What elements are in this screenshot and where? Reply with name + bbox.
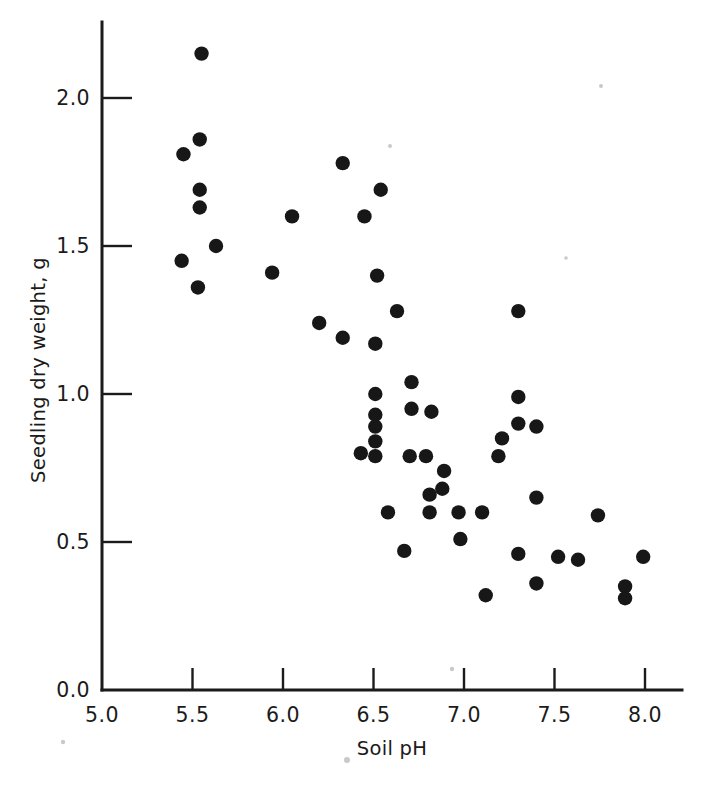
data-point — [193, 132, 207, 146]
x-tick-label: 7.5 — [538, 703, 572, 727]
x-tick-label: 8.0 — [628, 703, 662, 727]
x-tick-label: 6.0 — [266, 703, 300, 727]
data-point — [368, 419, 382, 433]
data-point — [193, 200, 207, 214]
data-point — [381, 505, 395, 519]
data-point — [479, 588, 493, 602]
data-point — [368, 387, 382, 401]
data-point — [390, 304, 404, 318]
x-tick-label: 5.5 — [176, 703, 210, 727]
data-point — [491, 449, 505, 463]
data-point — [511, 416, 525, 430]
data-point — [404, 375, 418, 389]
x-axis-ticks — [193, 668, 646, 690]
axis-lines — [102, 22, 682, 690]
data-point — [374, 183, 388, 197]
data-point — [336, 156, 350, 170]
data-point — [511, 304, 525, 318]
data-point — [591, 508, 605, 522]
data-point — [551, 550, 565, 564]
y-axis-title: Seedling dry weight, g — [27, 257, 50, 483]
x-tick-label: 6.5 — [357, 703, 391, 727]
data-point — [419, 449, 433, 463]
data-point — [475, 505, 489, 519]
y-tick-label: 2.0 — [56, 86, 90, 110]
data-point — [285, 209, 299, 223]
scatter-plot-figure: 5.05.56.06.57.07.58.0 0.00.51.01.52.0 So… — [0, 0, 720, 790]
data-points-layer — [174, 46, 650, 605]
data-point — [191, 280, 205, 294]
y-axis-tick-labels: 0.00.51.01.52.0 — [56, 86, 90, 702]
data-point — [265, 265, 279, 279]
data-point — [571, 553, 585, 567]
data-point — [354, 446, 368, 460]
data-point — [193, 183, 207, 197]
data-point — [209, 239, 223, 253]
data-point — [422, 487, 436, 501]
x-tick-label: 7.0 — [447, 703, 481, 727]
data-point — [176, 147, 190, 161]
data-point — [437, 464, 451, 478]
y-axis-ticks — [102, 98, 132, 542]
data-point — [636, 550, 650, 564]
data-point — [618, 591, 632, 605]
data-point — [397, 544, 411, 558]
data-point — [451, 505, 465, 519]
data-point — [511, 390, 525, 404]
y-tick-label: 1.5 — [56, 234, 90, 258]
data-point — [174, 254, 188, 268]
data-point — [368, 336, 382, 350]
x-axis-tick-labels: 5.05.56.06.57.07.58.0 — [85, 703, 662, 727]
x-axis-title: Soil pH — [357, 737, 427, 760]
data-point — [453, 532, 467, 546]
data-point — [336, 331, 350, 345]
y-tick-label: 1.0 — [56, 382, 90, 406]
data-point — [424, 405, 438, 419]
data-point — [368, 434, 382, 448]
x-tick-label: 5.0 — [85, 703, 119, 727]
data-point — [422, 505, 436, 519]
plot-canvas: 5.05.56.06.57.07.58.0 0.00.51.01.52.0 So… — [0, 0, 720, 790]
data-point — [529, 576, 543, 590]
y-tick-label: 0.0 — [56, 678, 90, 702]
data-point — [435, 482, 449, 496]
data-point — [529, 490, 543, 504]
data-point — [495, 431, 509, 445]
data-point — [194, 46, 208, 60]
data-point — [357, 209, 371, 223]
y-tick-label: 0.5 — [56, 530, 90, 554]
data-point — [511, 547, 525, 561]
data-point — [403, 449, 417, 463]
data-point — [312, 316, 326, 330]
data-point — [370, 268, 384, 282]
data-point — [404, 402, 418, 416]
data-point — [368, 449, 382, 463]
data-point — [529, 419, 543, 433]
